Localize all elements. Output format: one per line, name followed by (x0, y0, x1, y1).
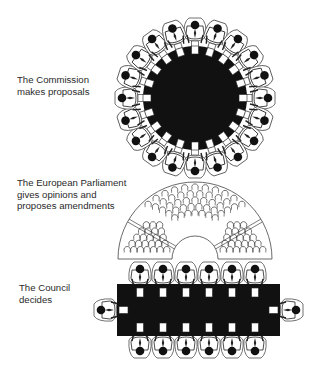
commission-round-table (115, 18, 275, 178)
parliament-hemicycle (118, 182, 272, 259)
paper-icon (229, 288, 236, 297)
paper-icon (239, 95, 247, 102)
paper-icon (137, 323, 144, 332)
paper-icon (183, 323, 190, 332)
paper-icon (160, 323, 167, 332)
paper-icon (143, 95, 151, 102)
person-icon (115, 87, 146, 109)
paper-icon (252, 323, 259, 332)
paper-icon (119, 307, 128, 314)
paper-icon (206, 323, 213, 332)
person-icon (184, 147, 206, 178)
institutions-diagram (0, 0, 318, 376)
paper-icon (269, 307, 278, 314)
person-icon (244, 87, 275, 109)
council-table (94, 262, 303, 358)
paper-icon (229, 323, 236, 332)
person-icon (184, 18, 206, 49)
paper-icon (192, 46, 199, 54)
paper-icon (137, 288, 144, 297)
paper-icon (192, 142, 199, 150)
paper-icon (160, 288, 167, 297)
paper-icon (183, 288, 190, 297)
round-table-icon (143, 46, 247, 150)
paper-icon (206, 288, 213, 297)
paper-icon (252, 288, 259, 297)
